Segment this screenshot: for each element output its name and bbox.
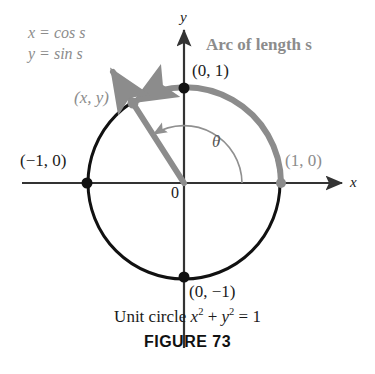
figure-container: x = cos s y = sin s Arc of length s θ y … — [0, 0, 375, 374]
parametric-equation-y: y = sin s — [28, 45, 85, 63]
point-marker-bottom — [179, 272, 190, 283]
arc-of-length-s — [137, 87, 282, 183]
angle-theta-label: θ — [212, 133, 220, 150]
arc-length-label: Arc of length s — [206, 36, 312, 53]
point-label-bottom: (0, −1) — [189, 283, 235, 300]
point-marker-top — [179, 83, 190, 94]
point-marker-right — [276, 178, 286, 188]
point-marker-terminal — [128, 98, 139, 109]
caption-var-x: x — [191, 307, 199, 326]
figure-caption-block: Unit circle x2 + y2 = 1 FIGURE 73 — [0, 306, 375, 351]
point-label-top: (0, 1) — [192, 62, 229, 79]
caption-plus: + — [203, 307, 221, 326]
figure-caption: Unit circle x2 + y2 = 1 — [0, 306, 375, 327]
y-axis-label: y — [180, 10, 187, 25]
caption-text: Unit circle — [114, 307, 190, 326]
point-label-terminal: (x, y) — [74, 89, 109, 106]
point-label-left: (−1, 0) — [20, 152, 66, 169]
point-label-right: (1, 0) — [285, 152, 322, 169]
caption-equals: = 1 — [234, 307, 261, 326]
figure-number: FIGURE 73 — [0, 333, 375, 351]
parametric-equation-x: x = cos s — [28, 24, 85, 42]
caption-var-y: y — [221, 307, 229, 326]
point-marker-left — [82, 178, 93, 189]
x-axis-label: x — [350, 175, 357, 190]
origin-label: 0 — [171, 185, 179, 201]
parametric-equations: x = cos s y = sin s — [28, 24, 85, 66]
